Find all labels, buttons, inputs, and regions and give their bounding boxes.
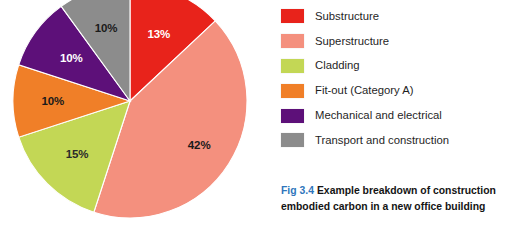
- legend-item[interactable]: Superstructure: [281, 29, 507, 54]
- legend-item[interactable]: Transport and construction: [281, 128, 507, 153]
- legend-item-label: Transport and construction: [315, 135, 449, 146]
- legend-color-swatch: [281, 9, 304, 23]
- legend-color-swatch: [281, 34, 304, 48]
- legend-item[interactable]: Cladding: [281, 54, 507, 79]
- pie-slice-label: 10%: [95, 22, 118, 34]
- legend-color-swatch: [281, 59, 304, 73]
- chart-legend: SubstructureSuperstructureCladdingFit-ou…: [281, 4, 507, 153]
- figure-number: Fig 3.4: [281, 185, 314, 196]
- pie-slice-label: 10%: [60, 52, 83, 64]
- figure-container: 13%42%15%10%10%10% SubstructureSuperstru…: [0, 0, 511, 234]
- legend-color-swatch: [281, 109, 304, 123]
- legend-item[interactable]: Mechanical and electrical: [281, 103, 507, 128]
- legend-color-swatch: [281, 84, 304, 98]
- pie-chart: 13%42%15%10%10%10%: [0, 0, 262, 234]
- figure-caption: Fig 3.4Example breakdown of construction…: [281, 183, 509, 215]
- legend-item-label: Mechanical and electrical: [315, 110, 442, 121]
- legend-item-label: Substructure: [315, 11, 379, 22]
- pie-slice-label: 13%: [147, 28, 170, 40]
- pie-slice-label: 15%: [66, 148, 89, 160]
- pie-slice-label: 10%: [41, 95, 64, 107]
- legend-item-label: Cladding: [315, 60, 360, 71]
- pie-chart-panel: 13%42%15%10%10%10%: [0, 0, 262, 234]
- legend-item[interactable]: Substructure: [281, 4, 507, 29]
- legend-color-swatch: [281, 133, 304, 147]
- pie-slices-group: [13, 0, 247, 218]
- pie-slice-label: 42%: [188, 139, 211, 151]
- legend-item-label: Superstructure: [315, 36, 389, 47]
- legend-item[interactable]: Fit-out (Category A): [281, 78, 507, 103]
- legend-item-label: Fit-out (Category A): [315, 85, 414, 96]
